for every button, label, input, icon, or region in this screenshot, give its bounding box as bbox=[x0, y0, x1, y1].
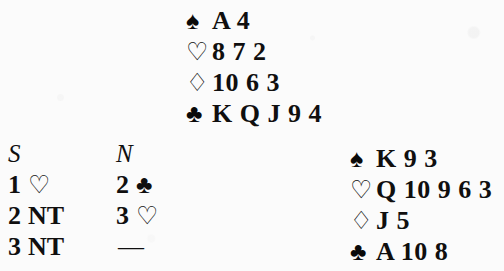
bidding-column-south: S bbox=[6, 141, 114, 166]
east-heart-cards: Q 10 9 6 3 bbox=[376, 177, 492, 203]
bridge-hand-diagram: ♠ A 4 ♡ 8 7 2 ♢ 10 6 3 ♣ K Q J 9 4 ♠ K 9… bbox=[0, 0, 504, 271]
north-hand: ♠ A 4 ♡ 8 7 2 ♢ 10 6 3 ♣ K Q J 9 4 bbox=[186, 8, 322, 132]
club-icon: ♣ bbox=[350, 239, 376, 264]
bidding-row: 1 ♡ 2 ♣ bbox=[6, 172, 222, 203]
east-club-row: ♣ A 10 8 bbox=[350, 239, 492, 270]
east-spade-row: ♠ K 9 3 bbox=[350, 146, 492, 177]
bid-level: 3 bbox=[114, 203, 129, 229]
heart-icon: ♡ bbox=[136, 203, 158, 228]
diamond-icon: ♢ bbox=[186, 70, 212, 95]
bidding-column-north: N bbox=[114, 141, 222, 166]
north-heart-cards: 8 7 2 bbox=[212, 39, 267, 65]
east-heart-row: ♡ Q 10 9 6 3 bbox=[350, 177, 492, 208]
bid-level: 3 bbox=[6, 234, 21, 260]
east-diamond-cards: J 5 bbox=[376, 208, 410, 234]
heart-icon: ♡ bbox=[28, 172, 50, 197]
bidding-header-south: S bbox=[6, 141, 21, 166]
bidding-header-row: S N bbox=[6, 141, 222, 172]
north-club-cards: K Q J 9 4 bbox=[212, 101, 322, 127]
bid-cell-south: 3 NT bbox=[6, 234, 114, 260]
bidding-table: S N 1 ♡ 2 ♣ 2 NT 3 ♡ bbox=[6, 141, 222, 265]
heart-icon: ♡ bbox=[186, 39, 212, 64]
bid-denomination-notrump: NT bbox=[28, 234, 64, 260]
bid-pass-dash: — bbox=[114, 234, 143, 260]
bid-cell-north: 2 ♣ bbox=[114, 172, 222, 198]
spade-icon: ♠ bbox=[350, 146, 376, 171]
bid-denomination-notrump: NT bbox=[28, 203, 64, 229]
north-heart-row: ♡ 8 7 2 bbox=[186, 39, 322, 70]
bid-cell-south: 2 NT bbox=[6, 203, 114, 229]
north-club-row: ♣ K Q J 9 4 bbox=[186, 101, 322, 132]
bidding-header-north: N bbox=[114, 141, 133, 166]
bid-cell-north: 3 ♡ bbox=[114, 203, 222, 229]
east-diamond-row: ♢ J 5 bbox=[350, 208, 492, 239]
bid-level: 2 bbox=[6, 203, 21, 229]
east-hand: ♠ K 9 3 ♡ Q 10 9 6 3 ♢ J 5 ♣ A 10 8 bbox=[350, 146, 492, 270]
heart-icon: ♡ bbox=[350, 177, 376, 202]
north-spade-cards: A 4 bbox=[212, 8, 250, 34]
spade-icon: ♠ bbox=[186, 8, 212, 33]
east-club-cards: A 10 8 bbox=[376, 239, 448, 265]
bidding-row: 3 NT — bbox=[6, 234, 222, 265]
bid-cell-north: — bbox=[114, 234, 222, 260]
north-spade-row: ♠ A 4 bbox=[186, 8, 322, 39]
north-diamond-row: ♢ 10 6 3 bbox=[186, 70, 322, 101]
bid-level: 2 bbox=[114, 172, 129, 198]
bid-cell-south: 1 ♡ bbox=[6, 172, 114, 198]
bidding-row: 2 NT 3 ♡ bbox=[6, 203, 222, 234]
east-spade-cards: K 9 3 bbox=[376, 146, 438, 172]
north-diamond-cards: 10 6 3 bbox=[212, 70, 280, 96]
club-icon: ♣ bbox=[136, 172, 152, 197]
bid-level: 1 bbox=[6, 172, 21, 198]
club-icon: ♣ bbox=[186, 101, 212, 126]
diamond-icon: ♢ bbox=[350, 208, 376, 233]
